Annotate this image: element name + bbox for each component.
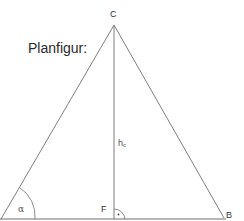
right-angle-dot <box>118 214 120 216</box>
figure-title: Planfigur: <box>28 41 87 55</box>
angle-alpha-label: α <box>18 205 24 214</box>
altitude-subscript: c <box>123 142 126 148</box>
triangle-figure <box>0 0 244 221</box>
right-angle-arc <box>114 209 125 219</box>
altitude-hc-label: hc <box>118 139 126 148</box>
side-a-line <box>114 25 224 218</box>
vertex-c-label: C <box>110 10 117 19</box>
vertex-b-label: B <box>226 211 232 220</box>
foot-f-label: F <box>101 205 107 214</box>
